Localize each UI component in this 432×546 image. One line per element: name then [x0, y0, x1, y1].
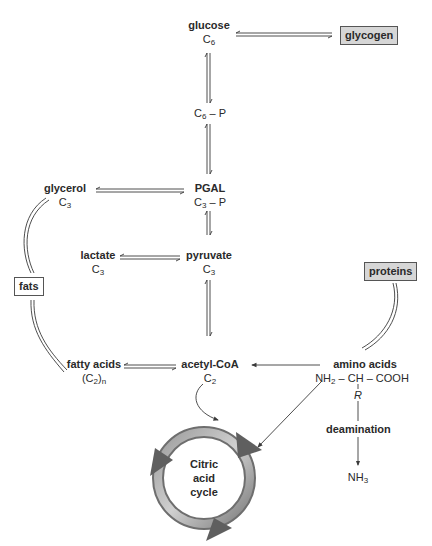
box-glycogen: glycogen — [340, 26, 398, 45]
acetyl-coa-formula: C2 — [178, 371, 242, 389]
cycle-label-line1: Citric — [182, 457, 226, 471]
amino-acids-label: amino acids — [320, 357, 410, 371]
node-deamination: deamination — [326, 422, 390, 436]
node-glucose: glucose C6 — [186, 18, 232, 50]
node-nh3: NH3 — [344, 470, 372, 488]
fatty-acids-formula: (C2)n — [64, 371, 124, 389]
lactate-label: lactate — [78, 248, 118, 262]
box-proteins: proteins — [364, 262, 417, 281]
lactate-formula: C3 — [78, 262, 118, 280]
glucose-c6p-arrow — [205, 53, 212, 103]
cycle-label-line2: acid — [182, 471, 226, 485]
r-group: R — [352, 388, 364, 402]
node-acetyl-coa: acetyl-CoA C2 — [178, 357, 242, 389]
glycerol-label: glycerol — [40, 181, 90, 195]
pgal-label: PGAL — [186, 181, 234, 195]
citric-acid-cycle-label: Citric acid cycle — [182, 457, 226, 499]
node-pyruvate: pyruvate C3 — [182, 248, 236, 280]
fattyacids-acetylcoa-arrow — [124, 363, 176, 370]
glycerol-formula: C3 — [40, 195, 90, 213]
metabolism-diagram: glucose C6 glycogen C6 – P glycerol C3 P… — [0, 0, 432, 546]
deamination-label: deamination — [326, 422, 390, 436]
acetylcoa-cycle-arrow — [196, 384, 218, 420]
node-glycerol: glycerol C3 — [40, 181, 90, 213]
node-c6p: C6 – P — [186, 106, 234, 124]
acetyl-coa-label: acetyl-CoA — [178, 357, 242, 371]
glycerol-pgal-arrow — [96, 187, 184, 194]
box-fats: fats — [14, 277, 44, 296]
glucose-formula: C6 — [186, 32, 232, 50]
c6p-formula: C6 – P — [186, 106, 234, 124]
c6p-pgal-arrow — [205, 124, 212, 174]
node-fatty-acids: fatty acids (C2)n — [64, 357, 124, 389]
pgal-formula: C3 – P — [186, 195, 234, 213]
cycle-arrowhead-right — [236, 432, 262, 458]
node-lactate: lactate C3 — [78, 248, 118, 280]
amino-acids-formula: NH2 – CH – COOH — [314, 371, 410, 389]
nh3-formula: NH3 — [344, 470, 372, 488]
glucose-label: glucose — [186, 18, 232, 32]
fatty-acids-label: fatty acids — [64, 357, 124, 371]
pyruvate-label: pyruvate — [182, 248, 236, 262]
pgal-pyruvate-arrow — [205, 211, 212, 235]
fats-fattyacids-arrow — [31, 300, 67, 372]
pyruvate-formula: C3 — [182, 262, 236, 280]
aminoacids-cycle-arrow — [258, 382, 321, 447]
lactate-pyruvate-arrow — [120, 254, 180, 261]
glucose-glycogen-arrow — [236, 31, 332, 38]
node-pgal: PGAL C3 – P — [186, 181, 234, 213]
proteins-aminoacids-arrow — [362, 283, 398, 350]
node-amino-acids: amino acids NH2 – CH – COOH — [320, 357, 410, 389]
pyruvate-acetylcoa-arrow — [205, 280, 212, 336]
cycle-label-line3: cycle — [182, 485, 226, 499]
